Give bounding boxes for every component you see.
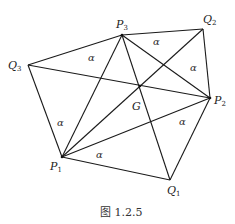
alpha-mark-3: α bbox=[190, 62, 197, 73]
label-p1: P1 bbox=[49, 160, 62, 174]
edge-p1-q1 bbox=[62, 157, 170, 180]
point-p1 bbox=[61, 156, 64, 159]
alpha-mark-2: α bbox=[153, 36, 160, 47]
label-p2: P2 bbox=[213, 94, 226, 108]
edge-q3-p1 bbox=[28, 65, 62, 157]
alpha-mark-4: α bbox=[57, 117, 64, 128]
figure-caption: 图 1.2.5 bbox=[100, 206, 143, 219]
label-g: G bbox=[132, 100, 141, 113]
point-p3 bbox=[121, 34, 124, 37]
edge-q3-p2 bbox=[28, 65, 210, 98]
edge-q2-p2 bbox=[203, 29, 210, 98]
point-p2 bbox=[209, 97, 212, 100]
geometry-diagram: P3 Q2 Q3 P2 G P1 Q1 α α α α α α 图 1.2.5 bbox=[0, 0, 235, 224]
alpha-mark-5: α bbox=[179, 116, 186, 127]
edge-q1-p2 bbox=[170, 98, 210, 180]
label-p3: P3 bbox=[115, 18, 128, 32]
label-q3: Q3 bbox=[8, 59, 22, 73]
point-g bbox=[139, 85, 142, 88]
label-q1: Q1 bbox=[167, 184, 181, 198]
edge-p2-p3 bbox=[122, 35, 210, 98]
alpha-mark-1: α bbox=[88, 52, 95, 63]
label-q2: Q2 bbox=[203, 13, 217, 27]
edge-p3-q2 bbox=[122, 29, 203, 35]
edge-p3-q1 bbox=[122, 35, 170, 180]
edge-p3-q3 bbox=[28, 35, 122, 65]
alpha-mark-6: α bbox=[96, 149, 103, 160]
